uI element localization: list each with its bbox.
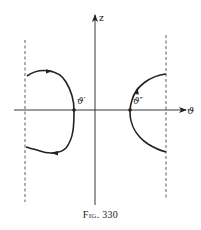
theta-double-prime-point bbox=[128, 108, 132, 112]
arrow-left-icon bbox=[51, 151, 58, 155]
left-closed-trajectory bbox=[26, 71, 74, 153]
horizontal-axis-label: ϑ bbox=[187, 105, 194, 116]
theta-prime-label: ϑ′ bbox=[77, 96, 85, 106]
theta-double-prime-label: ϑ″ bbox=[133, 96, 143, 106]
theta-prime-point bbox=[72, 108, 76, 112]
figure-caption: Fig. 330 bbox=[0, 209, 201, 220]
phase-diagram: ϑ z ϑ′ ϑ″ bbox=[0, 0, 201, 230]
vertical-axis-label: z bbox=[99, 13, 104, 23]
right-open-trajectory bbox=[130, 74, 166, 152]
